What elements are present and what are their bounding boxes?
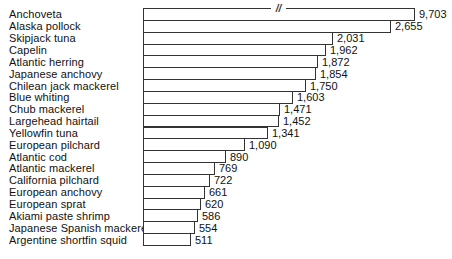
value-label: 2,655 (395, 20, 423, 33)
category-label: Argentine shortfin squid (9, 233, 127, 246)
value-label: 1,090 (249, 138, 277, 151)
value-label: 511 (195, 233, 213, 246)
bar (143, 233, 191, 246)
axis-break-icon: // (271, 4, 286, 13)
bar-chart: Anchoveta//9,703Alaska pollock2,655Skipj… (0, 0, 452, 259)
value-label: 9,703 (419, 8, 447, 21)
